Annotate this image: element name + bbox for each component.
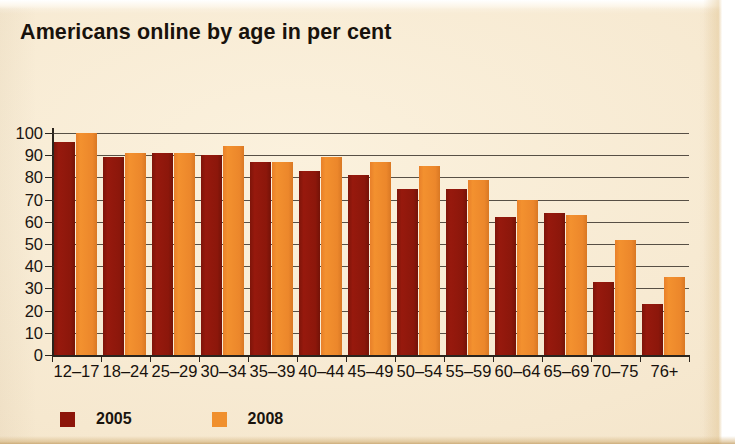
bar-2008-12_17 [76,133,97,355]
y-axis-tick-label: 100 [0,124,43,143]
y-axis-tick-label: 50 [0,235,43,254]
page-edge-bottom [0,436,735,444]
y-axis-tick-mark [45,155,52,156]
x-axis-tick-label: 55–59 [446,362,492,381]
y-axis-tick-label: 10 [0,323,43,342]
y-axis-tick-label: 80 [0,168,43,187]
bar-2005-76+ [642,304,663,355]
x-axis-tick-mark [640,355,641,362]
x-axis-tick-mark [395,355,396,362]
x-axis-tick-label: 40–44 [299,362,345,381]
bar-2008-76+ [664,277,685,355]
bar-group [642,133,685,355]
page-edge-right [703,0,735,444]
x-axis-tick-mark [150,355,151,362]
bar-group [103,133,146,355]
bar-2008-45_49 [370,162,391,355]
bar-2005-65_69 [544,213,565,355]
y-axis-tick-label: 90 [0,146,43,165]
legend-label-2005: 2005 [96,410,132,428]
bar-2008-35_39 [272,162,293,355]
x-axis-labels: 12–1718–2425–2930–3435–3940–4445–4950–54… [52,362,689,388]
bar-group [348,133,391,355]
x-axis-tick-label: 12–17 [54,362,100,381]
bar-group [495,133,538,355]
page-title: Americans online by age in per cent [20,20,392,45]
bar-2005-30_34 [201,155,222,355]
y-axis-tick-label: 40 [0,257,43,276]
legend-item-2005: 2005 [60,410,132,428]
x-axis-tick-mark [591,355,592,362]
x-axis-tick-label: 18–24 [103,362,149,381]
bar-2008-60_64 [517,200,538,355]
bar-group [54,133,97,355]
bar-2008-30_34 [223,146,244,355]
bar-2005-18_24 [103,157,124,355]
bar-2005-55_59 [446,189,467,356]
legend: 2005 2008 [60,408,283,430]
x-axis-tick-mark [542,355,543,362]
chart-poster: Americans online by age in per cent 1009… [0,0,735,444]
x-axis-tick-label: 25–29 [152,362,198,381]
x-axis-tick-mark [248,355,249,362]
bar-group [544,133,587,355]
x-axis-tick-label: 45–49 [348,362,394,381]
y-axis-tick-label: 20 [0,301,43,320]
bar-group [250,133,293,355]
bar-2005-50_54 [397,189,418,356]
y-axis-tick-mark [45,333,52,334]
legend-swatch-icon-2008 [212,412,227,427]
bar-2008-65_69 [566,215,587,355]
legend-item-2008: 2008 [212,410,284,428]
y-axis-tick-label: 0 [0,346,43,365]
bar-2005-35_39 [250,162,271,355]
bar-2005-45_49 [348,175,369,355]
y-axis-tick-mark [45,222,52,223]
bar-2008-40_44 [321,157,342,355]
bar-2008-50_54 [419,166,440,355]
plot-area [52,133,689,355]
bar-2008-55_59 [468,180,489,355]
bar-group [593,133,636,355]
x-axis-tick-mark [297,355,298,362]
y-axis-tick-mark [45,288,52,289]
bar-2008-18_24 [125,153,146,355]
y-axis-tick-mark [45,311,52,312]
bar-2005-40_44 [299,171,320,355]
x-axis-tick-mark [199,355,200,362]
bar-2005-25_29 [152,153,173,355]
bar-2005-12_17 [54,142,75,355]
bar-group [201,133,244,355]
y-axis-tick-label: 60 [0,212,43,231]
y-axis-tick-label: 30 [0,279,43,298]
legend-label-2008: 2008 [248,410,284,428]
bar-group [397,133,440,355]
legend-swatch-icon-2005 [60,412,75,427]
bar-group [299,133,342,355]
y-axis-tick-mark [45,266,52,267]
x-axis-tick-label: 70–75 [593,362,639,381]
x-axis-ticks [52,355,689,362]
x-axis-tick-mark [52,355,53,362]
x-axis-tick-label: 65–69 [544,362,590,381]
bar-group [152,133,195,355]
bar-2008-70_75 [615,240,636,355]
y-axis-tick-mark [45,200,52,201]
page-edge-top [0,0,735,9]
y-axis-tick-mark [45,355,52,356]
y-axis-tick-mark [45,133,52,134]
bar-2008-25_29 [174,153,195,355]
y-axis-tick-label: 70 [0,190,43,209]
x-axis-tick-label: 50–54 [397,362,443,381]
x-axis-tick-mark [346,355,347,362]
y-axis-tick-mark [45,177,52,178]
x-axis-tick-mark [444,355,445,362]
x-axis-tick-label: 60–64 [495,362,541,381]
bar-2005-60_64 [495,217,516,355]
x-axis-tick-label: 35–39 [250,362,296,381]
y-axis-tick-mark [45,244,52,245]
x-axis-tick-mark [101,355,102,362]
x-axis-tick-label: 30–34 [201,362,247,381]
x-axis-tick-mark [493,355,494,362]
bar-2005-70_75 [593,282,614,355]
